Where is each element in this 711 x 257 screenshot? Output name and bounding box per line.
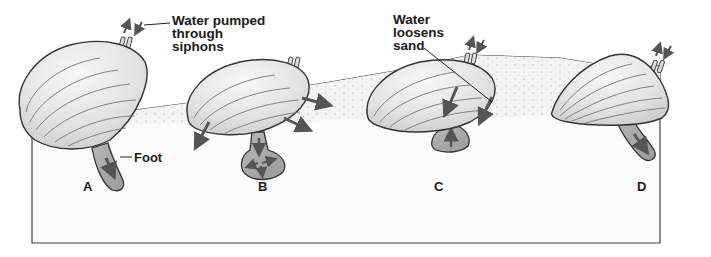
foot-callout: Foot: [134, 151, 162, 164]
stage-label-d: D: [637, 180, 646, 193]
water-in-arrow-icon: [137, 22, 142, 31]
loosens-callout-line-3: sand: [393, 39, 444, 52]
clam-burrowing-diagram: Water pumped through siphons Water loose…: [0, 0, 711, 257]
stage-label-a: A: [83, 180, 92, 193]
siphons-callout-line-3: siphons: [172, 40, 265, 53]
siphons-leader-line: [144, 23, 170, 25]
stage-label-c: C: [434, 180, 443, 193]
diagram-canvas: [0, 0, 711, 257]
stage-label-b: B: [258, 180, 267, 193]
loosens-sand-callout: Water loosens sand: [393, 13, 444, 52]
water-out-arrow-icon: [124, 23, 128, 33]
siphons-callout: Water pumped through siphons: [172, 14, 265, 53]
